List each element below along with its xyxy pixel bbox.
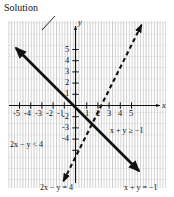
y-tick-label-5: 5 — [65, 45, 69, 54]
inequality-label-left: 2x − y < 4 — [10, 141, 43, 149]
x-tick-label-5: 5 — [129, 109, 133, 118]
y-tick-label--3: -3 — [62, 123, 69, 132]
y-tick-label-4: 4 — [65, 56, 69, 65]
coordinate-plane — [0, 0, 174, 197]
boundary-equation-solid: x + y = −1 — [124, 184, 158, 192]
boundary-equation-dashed: 2x − y = 4 — [40, 184, 73, 192]
y-tick-label--4: -4 — [62, 134, 69, 143]
graph-figure: Solution x y -5 -4 -3 -2 -1 1 2 3 4 5 5 … — [0, 0, 174, 197]
y-tick-label-2: 2 — [65, 78, 69, 87]
x-tick-label--5: -5 — [13, 109, 20, 118]
x-tick-label-1: 1 — [85, 109, 89, 118]
y-tick-label-3: 3 — [65, 67, 69, 76]
solution-annotation-label: Solution — [4, 3, 38, 13]
y-tick-label-1: 1 — [65, 89, 69, 98]
x-tick-label--3: -3 — [35, 109, 42, 118]
x-tick-label-2: 2 — [96, 109, 100, 118]
inequality-label-right: x + y ≥ −1 — [110, 127, 143, 135]
x-tick-label--4: -4 — [24, 109, 31, 118]
x-tick-label-3: 3 — [107, 109, 111, 118]
y-axis-label: y — [78, 18, 82, 27]
x-axis-label: x — [162, 101, 166, 110]
x-tick-label--2: -2 — [46, 109, 53, 118]
y-tick-label--2: -2 — [62, 112, 69, 121]
x-tick-label-4: 4 — [118, 109, 122, 118]
